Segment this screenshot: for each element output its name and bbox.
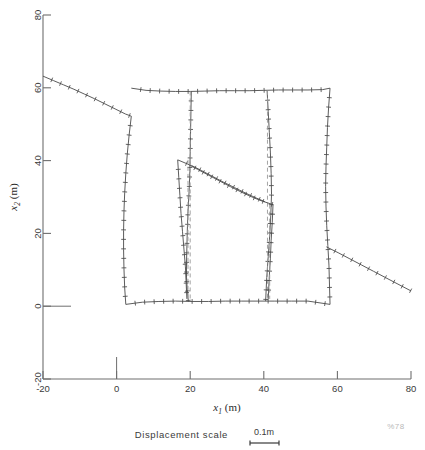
series-shear-band-lower — [191, 165, 265, 201]
node-ticks-ground-surface-left — [51, 78, 130, 118]
node-ticks-fault-left-branch-deformed — [184, 101, 193, 263]
series-block-right-edge — [326, 88, 330, 304]
series-fault-right-branch-deformed — [266, 91, 272, 301]
x-tick-label: 80 — [406, 383, 417, 394]
y-tick-label: 0 — [32, 304, 43, 309]
y-tick-label: 40 — [32, 155, 43, 166]
y-tick-label: 20 — [32, 228, 43, 239]
displacement-scale-value: 0.1m — [254, 427, 274, 437]
y-tick-label: 60 — [32, 83, 43, 94]
series-block-top-edge — [131, 88, 330, 91]
corner-annotation: %78 — [387, 422, 405, 431]
series-inner-wedge-left-deformed — [178, 160, 187, 299]
x-tick-label: -20 — [36, 383, 50, 394]
x-tick-label: 20 — [185, 383, 196, 394]
node-ticks-fault-right-branch-deformed — [263, 100, 274, 299]
displacement-scale-label: Displacement scale — [135, 429, 228, 440]
x-tick-label: 40 — [259, 383, 270, 394]
node-ticks-block-bottom-edge — [135, 299, 325, 306]
deformed-mesh-plot: 806040200-20-20020406080x1 (m)x2 (m)Disp… — [0, 0, 425, 450]
x-tick-label: 60 — [332, 383, 343, 394]
series-block-bottom-edge — [126, 301, 330, 304]
series-ground-surface-left — [43, 76, 131, 116]
x-tick-label: 0 — [114, 383, 119, 394]
figure-container: 806040200-20-20020406080x1 (m)x2 (m)Disp… — [0, 0, 425, 450]
y-axis-title: x2 (m) — [7, 183, 22, 212]
y-tick-label: 80 — [32, 10, 43, 21]
x-axis-title: x1 (m) — [212, 401, 241, 416]
node-ticks-block-left-edge — [121, 125, 132, 296]
